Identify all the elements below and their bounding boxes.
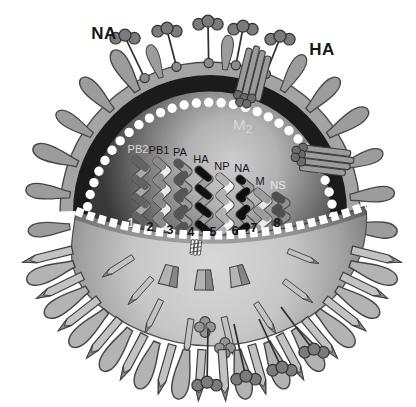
na-spike-head-icon xyxy=(193,15,223,30)
m2-channel-cross-section xyxy=(189,239,202,256)
ha-spike-icon xyxy=(76,73,118,115)
ha-spike-icon xyxy=(303,73,345,115)
segment-label: PB2 xyxy=(128,143,149,155)
ha-surface-label: HA xyxy=(309,40,335,59)
na-spike-stem xyxy=(208,23,209,63)
segment-number: 2 xyxy=(147,220,154,234)
segment-number: 6 xyxy=(232,224,239,238)
na-spike-base xyxy=(140,73,149,82)
m2-label-main: M xyxy=(233,116,246,133)
segment-label: NP xyxy=(214,160,229,172)
segment-number: 3 xyxy=(167,223,174,237)
na-spike-base xyxy=(172,62,181,71)
segment-number: 4 xyxy=(188,225,195,239)
influenza-virus-diagram: M2 PB2PB1PAHANPNAMNS 12345678 NA HA xyxy=(0,0,416,407)
na-spike-base xyxy=(204,58,213,67)
segment-number: 1 xyxy=(128,216,135,230)
m2-label-sub: 2 xyxy=(246,123,253,135)
ha-spike-cone-icon xyxy=(195,270,214,290)
na-spike-base xyxy=(231,61,240,70)
segment-label: PA xyxy=(173,146,188,158)
segment-label: NA xyxy=(234,162,250,174)
ha-spike-icon xyxy=(27,220,70,238)
segment-number: 5 xyxy=(210,225,217,239)
segment-number: 7 xyxy=(251,221,258,235)
ha-spike-rod-icon xyxy=(194,349,206,400)
segment-label: HA xyxy=(193,153,209,165)
segment-label: PB1 xyxy=(149,144,170,156)
na-spike-head-icon xyxy=(265,30,295,45)
segment-label: NS xyxy=(270,179,285,191)
segment-label: M xyxy=(255,175,264,187)
na-surface-label: NA xyxy=(91,24,117,43)
ha-spike-icon xyxy=(324,103,372,142)
segment-number: 8 xyxy=(274,216,281,230)
na-spike-head-icon xyxy=(228,20,258,35)
na-spike-head-icon xyxy=(152,22,182,37)
